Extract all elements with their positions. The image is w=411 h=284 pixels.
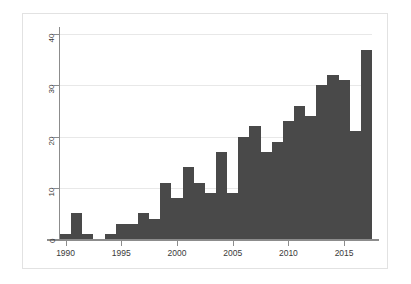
bar-1997 <box>138 213 149 239</box>
x-tick-label-2000: 2000 <box>168 248 187 258</box>
bar-2014 <box>327 75 338 239</box>
gridline-0 <box>60 239 372 240</box>
x-tick-1995 <box>121 241 122 246</box>
y-tick-label-text: 40 <box>48 34 57 43</box>
bar-2002 <box>194 183 205 239</box>
bar-2001 <box>183 167 194 239</box>
bar-2008 <box>261 152 272 239</box>
bar-1998 <box>149 219 160 239</box>
bar-1991 <box>71 213 82 239</box>
bar-1990 <box>60 234 71 239</box>
bar-2016 <box>350 131 361 239</box>
x-tick-1990 <box>66 241 67 246</box>
bar-2004 <box>216 152 227 239</box>
x-tick-2015 <box>344 241 345 246</box>
bar-1992 <box>82 234 93 239</box>
bar-2017 <box>361 50 372 240</box>
bar-2012 <box>305 116 316 239</box>
bar-2011 <box>294 106 305 239</box>
y-tick-label-30: 30 <box>36 80 52 90</box>
x-tick-2010 <box>288 241 289 246</box>
plot-area <box>60 29 372 239</box>
bar-1994 <box>105 234 116 239</box>
y-tick-label-text: 10 <box>48 187 57 196</box>
y-tick-label-0: 0 <box>36 234 52 244</box>
y-tick-label-text: 30 <box>48 85 57 94</box>
bar-2010 <box>283 121 294 239</box>
x-tick-label-1995: 1995 <box>112 248 131 258</box>
bar-2000 <box>171 198 182 239</box>
bar-2013 <box>316 85 327 239</box>
bar-2006 <box>238 137 249 239</box>
bar-2007 <box>249 126 260 239</box>
bar-1995 <box>116 224 127 239</box>
y-tick-label-text: 0 <box>48 239 57 243</box>
x-tick-2000 <box>177 241 178 246</box>
bars <box>60 29 372 239</box>
x-tick-label-1990: 1990 <box>56 248 75 258</box>
bar-2015 <box>339 80 350 239</box>
x-tick-label-2005: 2005 <box>223 248 242 258</box>
y-tick-label-20: 20 <box>36 132 52 142</box>
x-tick-2005 <box>233 241 234 246</box>
bar-1996 <box>127 224 138 239</box>
y-tick-label-text: 20 <box>48 136 57 145</box>
bar-2003 <box>205 193 216 239</box>
y-tick-label-40: 40 <box>36 29 52 39</box>
histogram-figure: 010203040 199019952000200520102015 <box>0 0 411 284</box>
x-tick-label-2010: 2010 <box>279 248 298 258</box>
y-tick-label-10: 10 <box>36 183 52 193</box>
bar-1999 <box>160 183 171 239</box>
x-tick-label-2015: 2015 <box>335 248 354 258</box>
bar-2005 <box>227 193 238 239</box>
bar-2009 <box>272 142 283 239</box>
